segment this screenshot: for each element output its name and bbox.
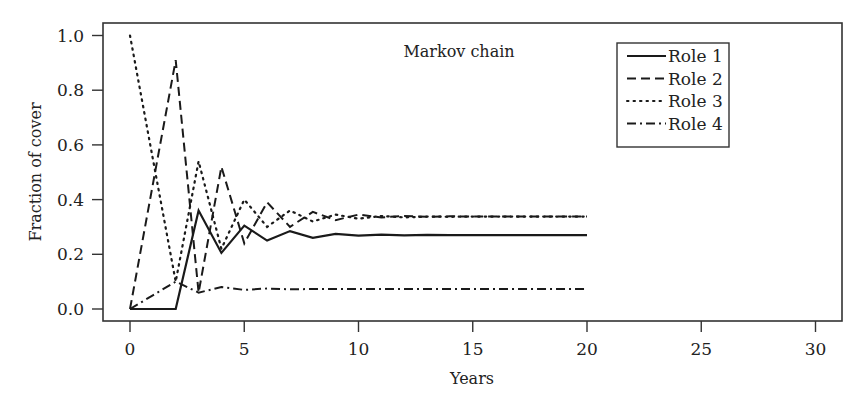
- series-line-role-2: [130, 60, 587, 309]
- y-tick-label: 0.4: [57, 190, 84, 210]
- x-axis: 051015202530: [125, 321, 827, 359]
- plot-area-frame: [103, 23, 842, 321]
- x-tick-label: 15: [462, 339, 484, 359]
- y-tick-label: 0.0: [57, 299, 84, 319]
- series-layer: [130, 36, 587, 310]
- series-line-role-1: [130, 211, 587, 310]
- series-line-role-3: [130, 36, 587, 282]
- markov-chain-chart: 0.00.20.40.60.81.0 051015202530 Fraction…: [0, 0, 867, 406]
- y-tick-label: 0.8: [57, 80, 84, 100]
- x-tick-label: 5: [239, 339, 250, 359]
- legend-label-role-2: Role 2: [668, 69, 723, 89]
- y-tick-label: 0.2: [57, 244, 84, 264]
- x-tick-label: 10: [348, 339, 370, 359]
- y-axis: 0.00.20.40.60.81.0: [57, 26, 103, 320]
- legend: Role 1Role 2Role 3Role 4: [617, 43, 729, 147]
- x-tick-label: 0: [125, 339, 136, 359]
- x-tick-label: 30: [805, 339, 827, 359]
- chart-title: Markov chain: [403, 42, 514, 61]
- y-tick-label: 0.6: [57, 135, 84, 155]
- legend-label-role-3: Role 3: [668, 91, 723, 111]
- x-tick-label: 25: [690, 339, 712, 359]
- x-axis-label: Years: [449, 369, 494, 388]
- legend-label-role-4: Role 4: [668, 114, 723, 134]
- y-tick-label: 1.0: [57, 26, 84, 46]
- legend-label-role-1: Role 1: [668, 46, 723, 66]
- x-tick-label: 20: [576, 339, 598, 359]
- y-axis-label: Fraction of cover: [26, 102, 45, 242]
